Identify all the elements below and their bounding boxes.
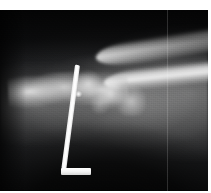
palmar-soft-tissue-shadow (0, 122, 208, 191)
page-margin-right (208, 0, 211, 193)
radiograph-figure (0, 0, 211, 193)
left-background-field (0, 10, 26, 191)
page-margin-top (0, 0, 211, 10)
pin-base-plate (61, 168, 91, 175)
orthopaedic-pin (56, 65, 98, 179)
pin-shaft (61, 65, 80, 170)
collimator-line-artifact (167, 10, 168, 191)
page-margin-bottom (0, 191, 211, 193)
dorsal-background-field (0, 10, 208, 62)
radiograph-plate (0, 10, 208, 191)
